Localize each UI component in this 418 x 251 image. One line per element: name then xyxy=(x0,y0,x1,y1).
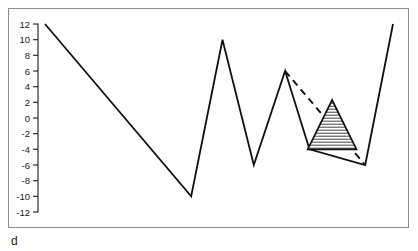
y-tick-label: -6 xyxy=(22,160,30,171)
figure-frame xyxy=(9,9,409,228)
y-tick-label: -4 xyxy=(22,144,30,155)
y-tick-label: 6 xyxy=(25,66,30,77)
y-tick-label: -12 xyxy=(16,207,30,218)
y-axis-tick-labels: 12 10 8 6 4 2 0 -2 -4 -6 -8 -10 -12 xyxy=(16,19,30,218)
y-tick-label: 12 xyxy=(19,19,30,30)
data-series-line xyxy=(45,24,393,196)
y-tick-label: -8 xyxy=(22,175,30,186)
figure-root: 12 10 8 6 4 2 0 -2 -4 -6 -8 -10 -12 d xyxy=(0,0,418,251)
y-tick-label: -10 xyxy=(16,191,30,202)
hatched-triangle-annotation xyxy=(308,100,357,149)
y-tick-label: 2 xyxy=(25,97,30,108)
y-tick-label: 4 xyxy=(25,81,30,92)
y-tick-label: -2 xyxy=(22,128,30,139)
y-tick-label: 10 xyxy=(19,34,30,45)
y-axis xyxy=(33,24,38,212)
panel-label: d xyxy=(11,234,18,248)
y-tick-label: 0 xyxy=(25,113,30,124)
zigzag-line-chart: 12 10 8 6 4 2 0 -2 -4 -6 -8 -10 -12 d xyxy=(0,0,418,251)
y-tick-label: 8 xyxy=(25,50,30,61)
